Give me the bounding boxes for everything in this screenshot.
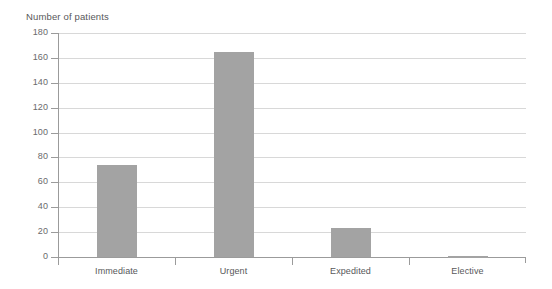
y-axis-tick-label: 160: [0, 52, 48, 64]
y-axis-tick: [51, 157, 58, 158]
y-axis-tick-label: 40: [0, 201, 48, 213]
y-axis-tick-label-text: 120: [4, 102, 48, 112]
gridline: [58, 58, 526, 59]
bar: [214, 52, 254, 257]
gridline: [58, 133, 526, 134]
y-axis-tick: [51, 182, 58, 183]
y-axis-tick: [51, 207, 58, 208]
y-axis-tick-label: 0: [0, 251, 48, 263]
y-axis-tick-label: 80: [0, 151, 48, 163]
y-axis-tick: [51, 33, 58, 34]
x-axis-category-label: Elective: [409, 266, 526, 276]
y-axis-tick: [51, 83, 58, 84]
y-axis-tick-label: 60: [0, 176, 48, 188]
y-axis-line: [58, 33, 59, 258]
y-axis-tick-label: 140: [0, 77, 48, 89]
x-axis-category-label: Expedited: [292, 266, 409, 276]
y-axis-tick-label-text: 60: [4, 176, 48, 186]
gridline: [58, 157, 526, 158]
x-axis-separator-tick: [409, 258, 410, 265]
x-axis-category-label: Urgent: [175, 266, 292, 276]
y-axis-tick: [51, 108, 58, 109]
y-axis-tick-label: 180: [0, 27, 48, 39]
x-axis-separator-tick: [292, 258, 293, 265]
x-axis-separator-tick: [58, 258, 59, 265]
bar-chart: Number of patients 020406080100120140160…: [0, 0, 552, 289]
bar: [97, 165, 137, 257]
y-axis-tick-label-text: 0: [4, 251, 48, 261]
y-axis-tick-label-text: 20: [4, 226, 48, 236]
bar: [448, 256, 488, 258]
y-axis-tick-label: 100: [0, 127, 48, 139]
gridline: [58, 33, 526, 34]
y-axis-tick: [51, 58, 58, 59]
x-axis-category-label: Immediate: [58, 266, 175, 276]
y-axis-tick: [51, 133, 58, 134]
y-axis-tick-label-text: 80: [4, 151, 48, 161]
y-axis-tick: [51, 257, 58, 258]
x-axis-separator-tick: [175, 258, 176, 265]
x-axis-end-tick: [525, 257, 526, 263]
y-axis-tick-label-text: 100: [4, 127, 48, 137]
plot-area: 020406080100120140160180ImmediateUrgentE…: [0, 0, 552, 289]
y-axis-tick-label-text: 140: [4, 77, 48, 87]
bar: [331, 228, 371, 257]
gridline: [58, 108, 526, 109]
y-axis-tick-label: 120: [0, 102, 48, 114]
y-axis-tick-label-text: 40: [4, 201, 48, 211]
gridline: [58, 83, 526, 84]
y-axis-tick-label-text: 180: [4, 27, 48, 37]
y-axis-tick-label-text: 160: [4, 52, 48, 62]
y-axis-tick-label: 20: [0, 226, 48, 238]
y-axis-tick: [51, 232, 58, 233]
